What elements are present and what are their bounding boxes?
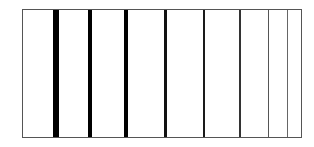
vertical-line-2 bbox=[88, 10, 92, 137]
diagram-description: Rectangle divided by vertical lines whos… bbox=[0, 0, 1, 1]
vertical-line-6 bbox=[239, 10, 241, 137]
vertical-line-5 bbox=[203, 10, 205, 137]
vertical-line-4 bbox=[164, 10, 167, 137]
vertical-line-8 bbox=[287, 10, 288, 137]
vertical-line-1 bbox=[53, 10, 59, 137]
vertical-line-7 bbox=[268, 10, 269, 137]
vertical-line-3 bbox=[124, 10, 128, 137]
diagram-frame bbox=[22, 9, 302, 138]
